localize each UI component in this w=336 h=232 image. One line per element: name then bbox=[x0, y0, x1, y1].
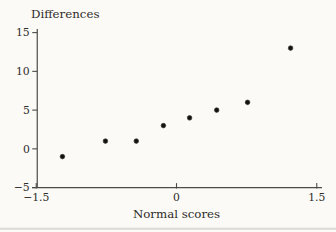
y-tick-label: 5 bbox=[23, 104, 30, 117]
data-point bbox=[214, 108, 219, 113]
x-axis-label: Normal scores bbox=[133, 207, 220, 221]
x-tick-label: 0 bbox=[173, 191, 180, 204]
y-tick-label: −5 bbox=[14, 181, 30, 194]
data-point bbox=[103, 139, 108, 144]
y-tick-label: 0 bbox=[23, 143, 30, 156]
data-point bbox=[187, 116, 192, 121]
data-point bbox=[161, 123, 166, 128]
x-tick-label: 1.5 bbox=[308, 191, 325, 204]
data-point bbox=[245, 100, 250, 105]
scatter-plot: Differences Normal scores −1.501.5151050… bbox=[0, 0, 336, 232]
data-point bbox=[288, 46, 293, 51]
y-tick-label: 10 bbox=[16, 65, 30, 78]
figure-page: Differences Normal scores −1.501.5151050… bbox=[0, 0, 336, 232]
y-tick-label: 15 bbox=[16, 26, 30, 39]
page-rule bbox=[0, 228, 336, 230]
y-axis-title: Differences bbox=[31, 7, 99, 21]
data-point bbox=[60, 154, 65, 159]
data-point bbox=[134, 139, 139, 144]
